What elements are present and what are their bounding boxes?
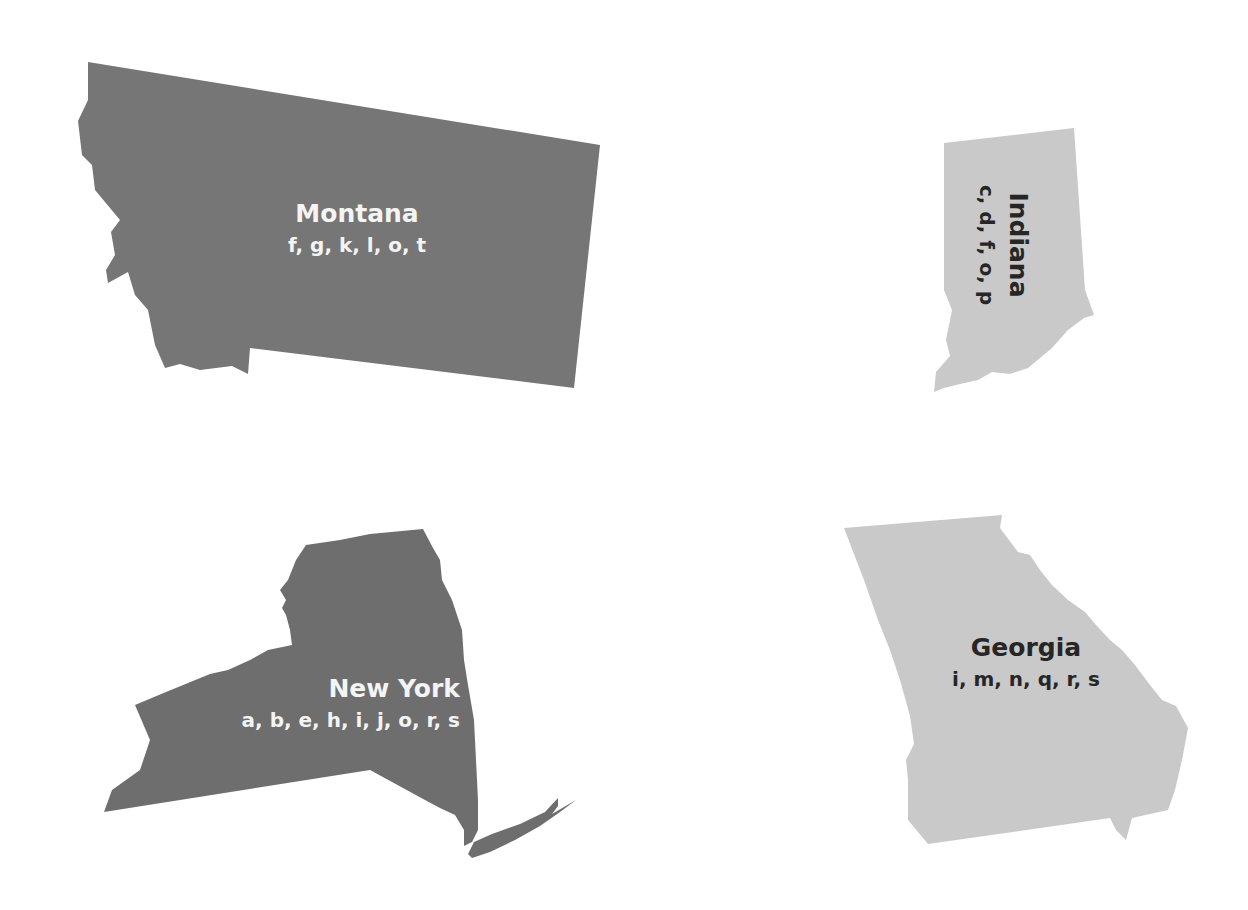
montana-letters: f, g, k, l, o, t — [237, 230, 477, 260]
georgia-letters: i, m, n, q, r, s — [916, 664, 1136, 694]
state-map-canvas — [0, 0, 1248, 910]
new-york-label: New York a, b, e, h, i, j, o, r, s — [160, 673, 460, 735]
montana-label: Montana f, g, k, l, o, t — [237, 198, 477, 260]
georgia-label: Georgia i, m, n, q, r, s — [916, 632, 1136, 694]
georgia-name: Georgia — [916, 632, 1136, 664]
indiana-letters: c, d, f, o, p — [972, 125, 1002, 365]
new-york-letters: a, b, e, h, i, j, o, r, s — [160, 705, 460, 735]
indiana-name: Indiana — [1002, 125, 1034, 365]
montana-name: Montana — [237, 198, 477, 230]
indiana-label: Indiana c, d, f, o, p — [972, 125, 1034, 365]
new-york-name: New York — [160, 673, 460, 705]
long-island-shape — [468, 798, 576, 858]
